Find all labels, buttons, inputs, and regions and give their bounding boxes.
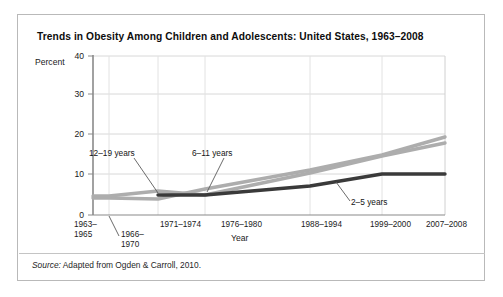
x-tick-label-2007-2008: 2007–2008 — [426, 220, 467, 229]
x-tick-label-1971-1974: 1971–1974 — [160, 220, 201, 229]
x-tick-label-1988-1994: 1988–1994 — [301, 220, 342, 229]
source-text: Adapted from Ogden & Carroll, 2010. — [61, 260, 201, 270]
source-note: Source: Adapted from Ogden & Carroll, 20… — [32, 260, 201, 270]
x-tick-label-1976-1980: 1976–1980 — [221, 220, 262, 229]
y-tick-label-10: 10 — [62, 169, 84, 179]
y-tick-label-40: 40 — [62, 51, 84, 61]
y-tick-label-20: 20 — [62, 129, 84, 139]
figure-card: Trends in Obesity Among Children and Ado… — [17, 14, 485, 281]
source-prefix: Source: — [32, 260, 61, 270]
series-label-12-19-years: 12–19 years — [89, 148, 135, 158]
y-tick-label-0: 0 — [62, 210, 84, 220]
series-line-2-5 — [158, 174, 445, 195]
x-axis-title: Year — [231, 233, 248, 243]
y-gridlines — [93, 56, 445, 174]
x-tick-label-1963-1965-line2: 1965 — [74, 230, 92, 239]
series-label-2-5-years: 2–5 years — [351, 197, 387, 207]
plot-area: 40 30 20 10 0 1963– 1965 1966– 1970 1971… — [18, 15, 486, 282]
x-tick-label-1966-1970-line1: 1966– — [121, 230, 144, 239]
y-tick-label-30: 30 — [62, 89, 84, 99]
x-tick-label-1963-1965-line1: 1963– — [74, 220, 97, 229]
source-divider — [19, 253, 485, 254]
x-tick-label-1999-2000: 1999–2000 — [370, 220, 411, 229]
x-tick-label-1966-1970-line2: 1970 — [121, 240, 139, 249]
series-label-6-11-years: 6–11 years — [192, 148, 232, 158]
